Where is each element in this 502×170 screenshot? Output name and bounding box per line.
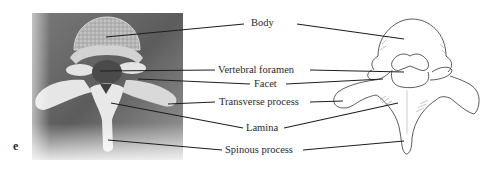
leader-foramen-right [310,70,404,72]
label-spinous-process: Spinous process [223,144,295,156]
label-lamina: Lamina [244,122,280,134]
label-transverse-process: Transverse process [217,96,301,108]
panel-letter: e [13,139,18,154]
leader-lamina-right [284,103,398,128]
vertebra-diagram: Body Vertebral foramen Facet Transverse … [0,0,502,170]
leader-spinous-right [303,141,404,150]
leader-transverse-right [310,101,343,102]
label-body: Body [249,17,276,29]
leader-facet-right [286,79,383,84]
label-facet: Facet [252,78,279,90]
leader-foramen-left [100,70,215,71]
leader-body-right [297,24,404,39]
leader-facet-left [138,79,250,84]
leader-body-left [106,24,244,37]
leader-transverse-left [168,102,215,104]
label-vertebral-foramen: Vertebral foramen [216,64,296,76]
leader-spinous-left [108,140,222,150]
